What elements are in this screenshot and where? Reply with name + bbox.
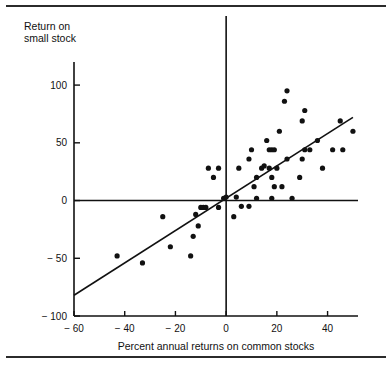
data-point (254, 175, 259, 180)
data-point (300, 118, 305, 123)
data-point (203, 205, 208, 210)
data-point (251, 184, 256, 189)
data-point (254, 196, 259, 201)
data-point (320, 166, 325, 171)
y-tick-label: 50 (56, 137, 68, 148)
data-point (279, 184, 284, 189)
figure-container: Return on small stock − 60− 40− 2002040−… (0, 0, 392, 365)
data-point (206, 166, 211, 171)
x-tick-label: − 60 (64, 323, 84, 334)
data-point (315, 138, 320, 143)
data-point (234, 194, 239, 199)
data-point (211, 175, 216, 180)
data-point (249, 147, 254, 152)
scatter-plot: − 60− 40− 2002040− 100− 50050100Percent … (0, 0, 392, 365)
x-axis-label: Percent annual returns on common stocks (118, 340, 315, 352)
regression-line (74, 117, 353, 295)
data-point (188, 253, 193, 258)
data-point (269, 175, 274, 180)
data-point (272, 147, 277, 152)
x-tick-label: 20 (271, 323, 283, 334)
data-point (191, 234, 196, 239)
x-tick-label: − 20 (166, 323, 186, 334)
y-tick-label: 0 (61, 195, 67, 206)
data-point (216, 166, 221, 171)
data-point (115, 253, 120, 258)
data-point (196, 223, 201, 228)
data-point (284, 88, 289, 93)
data-point (297, 175, 302, 180)
data-point (284, 156, 289, 161)
data-point (289, 196, 294, 201)
data-point (246, 156, 251, 161)
data-point (160, 214, 165, 219)
data-point (274, 166, 279, 171)
data-point (168, 244, 173, 249)
data-point (340, 147, 345, 152)
data-point (262, 163, 267, 168)
data-point (300, 156, 305, 161)
y-tick-label: − 50 (47, 253, 67, 264)
data-point (224, 194, 229, 199)
y-tick-label: − 100 (42, 311, 68, 322)
data-point (277, 129, 282, 134)
data-point (282, 99, 287, 104)
data-point (272, 184, 277, 189)
data-point (236, 166, 241, 171)
data-point (264, 138, 269, 143)
data-point (193, 212, 198, 217)
y-tick-label: 100 (50, 80, 67, 91)
data-point (216, 205, 221, 210)
data-point (267, 166, 272, 171)
data-point (302, 108, 307, 113)
data-point (302, 147, 307, 152)
data-point (246, 204, 251, 209)
data-point (239, 204, 244, 209)
x-tick-label: 40 (322, 323, 334, 334)
data-point (330, 147, 335, 152)
data-point (338, 118, 343, 123)
data-point (140, 260, 145, 265)
x-tick-label: − 40 (115, 323, 135, 334)
data-point (307, 147, 312, 152)
data-point (350, 129, 355, 134)
data-point (269, 196, 274, 201)
data-point (231, 214, 236, 219)
x-tick-label: 0 (223, 323, 229, 334)
